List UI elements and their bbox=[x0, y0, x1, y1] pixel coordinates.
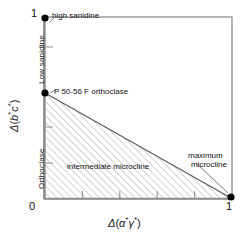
y-axis-title-star-2: * bbox=[6, 103, 15, 106]
axis-category-low-sanidine: Low sanidine bbox=[37, 35, 46, 84]
y-axis-title-c: c bbox=[8, 106, 20, 112]
figure-container: 1 0 1 Low sanidine Orthoclase Δ(b*c*) Δ(… bbox=[0, 0, 250, 239]
axis-category-orthoclase: Orthoclase bbox=[37, 148, 46, 189]
data-point-high-sanidine[interactable] bbox=[41, 14, 48, 21]
y-axis-title-star-1: * bbox=[6, 112, 15, 115]
annotation-orthoclase-point: P 50-56 F orthoclase bbox=[54, 88, 128, 96]
annotation-maximum-microcline-line2: microcline bbox=[191, 161, 227, 169]
y-axis-tick-label-1: 1 bbox=[31, 8, 37, 19]
y-axis-tick-label-0: 0 bbox=[29, 201, 35, 212]
annotation-maximum-microcline-line1: maximum bbox=[188, 152, 223, 160]
annotation-intermediate-microcline: intermediate microcline bbox=[67, 163, 149, 171]
y-axis-title-delta: Δ bbox=[8, 125, 20, 132]
x-axis-title-close: ) bbox=[137, 217, 141, 229]
x-axis-title: Δ(α*γ*) bbox=[108, 215, 141, 229]
annotation-high-sanidine: high sanidine bbox=[52, 12, 99, 20]
x-axis-tick-label-1: 1 bbox=[226, 201, 232, 212]
y-axis-title-b: b bbox=[8, 115, 20, 121]
data-point-orthoclase[interactable] bbox=[41, 89, 48, 96]
y-axis-title-close: ) bbox=[8, 99, 20, 103]
y-axis-title-open: ( bbox=[8, 121, 20, 125]
y-axis-title: Δ(b*c*) bbox=[6, 99, 20, 132]
